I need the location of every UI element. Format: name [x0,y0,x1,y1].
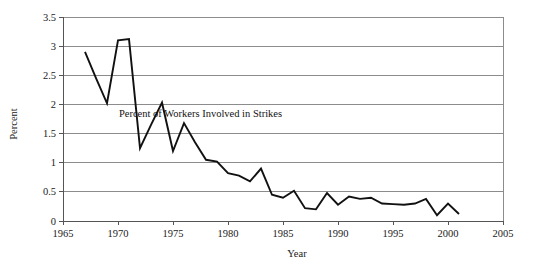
data-series [85,39,459,215]
chart-annotations: Percent of Workers Involved in Strikes [119,108,282,119]
x-tick-label-2000: 2000 [438,228,459,239]
y-tick-label-2.5: 2.5 [43,70,56,81]
y-axis-ticks [59,17,63,221]
x-tick-label-1985: 1985 [273,228,294,239]
x-tick-label-1975: 1975 [163,228,184,239]
y-tick-label-1.5: 1.5 [43,128,56,139]
x-axis-tick-labels: 196519701975198019851990199520002005 [53,228,514,239]
y-tick-label-0: 0 [51,216,56,227]
y-tick-label-0.5: 0.5 [43,186,56,197]
x-tick-label-1965: 1965 [53,228,74,239]
strikes-line-chart: 196519701975198019851990199520002005 00.… [0,0,543,269]
y-tick-label-2: 2 [51,99,56,110]
x-tick-label-2005: 2005 [493,228,514,239]
y-tick-label-1: 1 [51,157,56,168]
x-axis-ticks [63,221,503,225]
x-tick-label-1970: 1970 [108,228,129,239]
y-tick-label-3: 3 [51,41,56,52]
y-tick-label-3.5: 3.5 [43,12,56,23]
x-tick-label-1980: 1980 [218,228,239,239]
annotation-0: Percent of Workers Involved in Strikes [119,108,282,119]
x-tick-label-1990: 1990 [328,228,349,239]
y-axis-tick-labels: 00.511.522.533.5 [43,12,56,227]
chart-container: 196519701975198019851990199520002005 00.… [0,0,543,269]
y-axis-title: Percent [8,108,19,140]
x-tick-label-1995: 1995 [383,228,404,239]
series-line-0 [85,39,459,215]
x-axis-title: Year [287,248,307,259]
